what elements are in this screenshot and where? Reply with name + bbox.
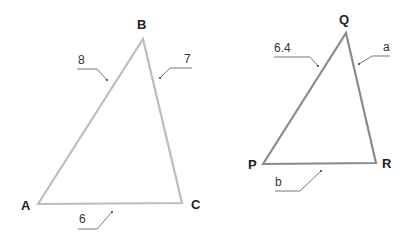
leader-qr — [359, 56, 390, 64]
vertex-q-label: Q — [339, 13, 349, 26]
triangle-abc — [38, 39, 182, 204]
side-pr-label: b — [275, 176, 282, 188]
vertex-p-label: P — [248, 158, 257, 171]
side-bc-label: 7 — [184, 53, 191, 65]
side-ac-label: 6 — [79, 213, 86, 225]
vertex-c-label: C — [191, 198, 200, 211]
side-pq-label: 6.4 — [274, 42, 291, 54]
leader-bc — [160, 68, 192, 78]
side-ab-label: 8 — [78, 54, 85, 66]
vertex-a-label: A — [21, 199, 30, 212]
leader-pq — [274, 57, 318, 66]
side-qr-label: a — [383, 41, 390, 53]
vertex-b-label: B — [137, 18, 146, 31]
diagram-canvas — [0, 0, 412, 241]
vertex-r-label: R — [382, 157, 391, 170]
leader-ab — [77, 69, 107, 80]
